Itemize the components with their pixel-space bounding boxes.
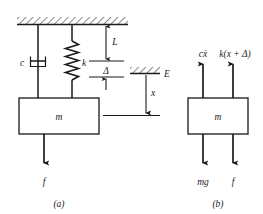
equilibrium-datum: E xyxy=(130,67,170,79)
dimension-delta-label: Δ xyxy=(102,66,109,76)
damping-force-b: cẋ xyxy=(199,49,208,98)
damper-label: c xyxy=(20,58,25,68)
ceiling-support xyxy=(17,17,128,25)
figure-container: c k m f L Δ xyxy=(0,0,263,214)
force-f-label: f xyxy=(232,177,236,187)
mass-block-b: m xyxy=(188,98,248,134)
spring-label: k xyxy=(82,58,87,68)
equilibrium-label: E xyxy=(163,69,170,79)
applied-force-b: f xyxy=(232,134,236,187)
weight-label: mg xyxy=(197,177,209,187)
panel-a: c k m f L Δ xyxy=(17,17,170,210)
force-f-label: f xyxy=(43,177,47,187)
figure-canvas: c k m f L Δ xyxy=(0,0,263,214)
dimension-L-label: L xyxy=(111,37,117,47)
panel-b: cẋ k(x + Δ) m mg f (b) xyxy=(188,49,251,210)
spring-force-label: k(x + Δ) xyxy=(219,49,251,60)
dimension-stack: L Δ xyxy=(89,27,124,91)
spring-force-b: k(x + Δ) xyxy=(219,49,251,98)
weight-force-b: mg xyxy=(197,134,209,187)
spring-assembly: k xyxy=(66,25,87,99)
damper-assembly: c xyxy=(20,25,46,99)
displacement-x-label: x xyxy=(150,88,156,98)
displacement-coordinate: x xyxy=(103,75,160,116)
mass-block-a: m xyxy=(19,98,99,134)
spring-coils xyxy=(66,41,79,80)
mass-label: m xyxy=(215,112,222,122)
applied-force-a: f xyxy=(43,134,47,187)
ceiling-hatch xyxy=(17,17,128,25)
caption-b: (b) xyxy=(212,199,223,210)
damping-force-label: cẋ xyxy=(199,49,208,59)
caption-a: (a) xyxy=(53,199,64,210)
equilibrium-hatch xyxy=(130,67,160,74)
mass-label: m xyxy=(56,112,63,122)
